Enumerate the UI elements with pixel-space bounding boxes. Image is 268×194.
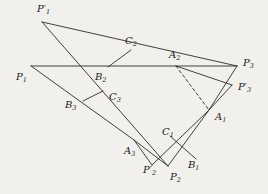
segment-a3-p2 (134, 140, 168, 166)
label-subscript: 3 (247, 86, 251, 94)
label-b1: B1 (188, 160, 200, 170)
label-p1-prime: P′1 (37, 4, 50, 14)
label-a1: A1 (215, 112, 226, 122)
label-subscript: 1 (23, 76, 27, 84)
label-c2: C2 (125, 36, 137, 46)
label-subscript: 1 (222, 116, 226, 124)
segment-c1-b1 (170, 136, 196, 159)
label-subscript: 3 (117, 96, 121, 104)
label-p3-prime: P′3 (238, 82, 251, 92)
label-subscript: 1 (170, 131, 174, 139)
label-subscript: 2 (177, 176, 181, 184)
label-subscript: 3 (131, 150, 135, 158)
label-subscript: 1 (195, 164, 199, 172)
label-base: P′ (238, 81, 247, 92)
segment-a3-p2_prime (134, 140, 152, 165)
label-a3: A3 (124, 146, 135, 156)
label-c1: C1 (162, 127, 174, 137)
geometry-figure: P′1 P1 P3 P′3 P2 P′2 A1 A2 A3 B1 B2 B3 C… (0, 0, 268, 194)
label-base: P (243, 57, 250, 68)
label-a2: A2 (169, 50, 180, 60)
label-subscript: 2 (133, 40, 137, 48)
label-b3: B3 (65, 100, 77, 110)
label-subscript: 3 (72, 104, 76, 112)
label-p2: P2 (170, 172, 181, 182)
segment-p2_prime-a1 (152, 110, 209, 165)
label-base: C (109, 91, 117, 102)
label-p1: P1 (16, 72, 27, 82)
label-p3: P3 (243, 58, 254, 68)
label-subscript: 3 (250, 62, 254, 70)
label-subscript: 2 (152, 169, 156, 177)
geometry-canvas (0, 0, 268, 194)
segment-c2-b2 (108, 50, 131, 67)
segment-a1-p3 (209, 66, 237, 110)
label-c3: C3 (109, 92, 121, 102)
segment-p2-a1 (168, 110, 209, 166)
dashed-segment-a2-a1 (176, 66, 209, 110)
label-subscript: 2 (176, 54, 180, 62)
label-subscript: 1 (46, 8, 50, 16)
segment-p3_prime-a1 (209, 85, 232, 110)
segment-p3_prime-a2 (176, 66, 232, 85)
label-base: P (170, 171, 177, 182)
label-base: C (125, 35, 133, 46)
label-b2: B2 (95, 72, 107, 82)
dashed-line-group (176, 66, 209, 110)
segment-p1_prime-p2 (42, 22, 168, 166)
label-base: P′ (143, 164, 152, 175)
label-base: P′ (37, 3, 46, 14)
label-p2-prime: P′2 (143, 165, 156, 175)
segment-p1_prime-p3 (42, 22, 237, 66)
label-base: P (16, 71, 23, 82)
segment-c3-b3 (83, 91, 103, 101)
label-base: C (162, 126, 170, 137)
label-subscript: 2 (102, 76, 106, 84)
